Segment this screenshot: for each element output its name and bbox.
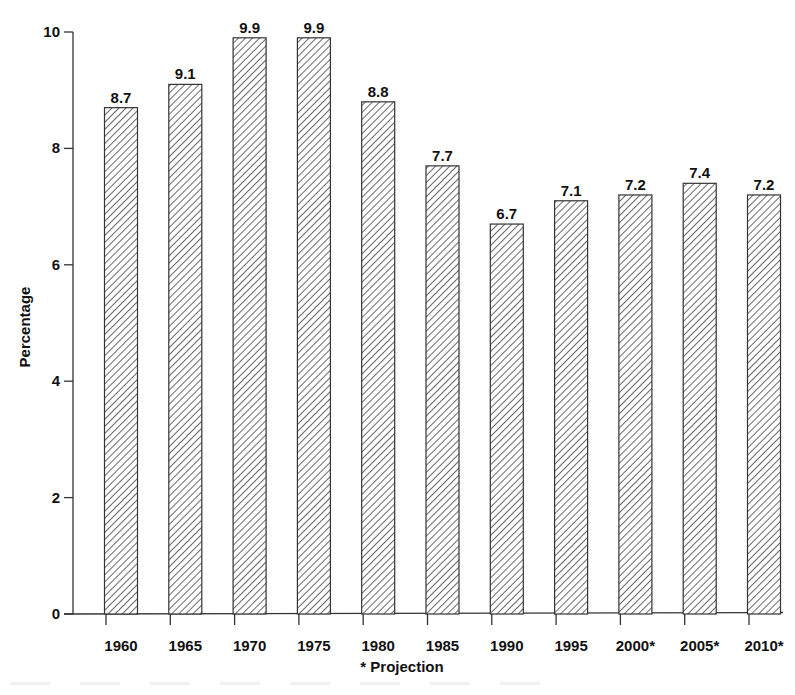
y-tick-label: 6 [52,256,60,273]
data-label: 9.9 [303,19,324,36]
data-label: 7.7 [432,147,453,164]
data-label: 6.7 [496,205,517,222]
y-tick-label: 0 [52,605,60,622]
bar-1995 [555,201,588,614]
y-axis-label: Percentage [16,287,33,368]
x-tick-label: 1960 [104,637,137,654]
bar-1990 [490,224,523,614]
bar-2010 [748,195,781,614]
data-label: 9.9 [239,19,260,36]
y-tick-label: 2 [52,489,60,506]
x-tick-label: 1965 [169,637,202,654]
bar-1960 [105,108,138,614]
bar-1965 [169,84,202,614]
x-tick-label: 1985 [426,637,459,654]
bar-1980 [362,102,395,614]
x-tick-label: 1970 [233,637,266,654]
bar-1970 [233,38,266,614]
x-tick-label: 1975 [297,637,330,654]
data-label: 8.7 [111,89,132,106]
y-axis: 0246810 [43,23,73,622]
bar-1985 [426,166,459,614]
x-axis: 196019651970197519801985199019952000*200… [64,613,784,655]
x-tick-label: 2000* [616,637,655,654]
bar-chart: 0246810 19601965197019751980198519901995… [0,0,795,695]
data-label: 7.2 [625,176,646,193]
y-tick-label: 8 [52,139,60,156]
bars [105,38,781,614]
x-axis-label: * Projection [360,658,443,675]
data-label: 7.2 [754,176,775,193]
y-tick-label: 4 [52,372,61,389]
data-label: 7.4 [689,164,711,181]
bar-2000 [619,195,652,614]
scan-artifact [10,682,570,685]
x-tick-label: 1995 [554,637,587,654]
data-label: 7.1 [561,182,582,199]
y-tick-label: 10 [43,23,60,40]
data-label: 8.8 [368,83,389,100]
data-label: 9.1 [175,65,196,82]
bar-2005 [683,183,716,614]
x-tick-label: 2010* [744,637,783,654]
x-tick-label: 2005* [680,637,719,654]
bar-1975 [297,38,330,614]
x-tick-label: 1990 [490,637,523,654]
x-tick-label: 1980 [362,637,395,654]
